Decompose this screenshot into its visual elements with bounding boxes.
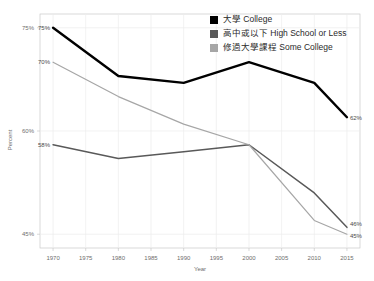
x-axis-title: Year	[194, 266, 206, 272]
x-tick-1980: 1980	[112, 255, 126, 261]
legend-label-college: 大學 College	[223, 14, 272, 25]
x-tick-1970: 1970	[46, 255, 60, 261]
x-tick-1995: 1995	[210, 255, 224, 261]
x-tick-1975: 1975	[79, 255, 93, 261]
label-high-school-end: 46%	[350, 221, 363, 227]
x-tick-2000: 2000	[242, 255, 256, 261]
legend-swatch-some-college	[210, 44, 218, 52]
chart-legend: 大學 College 高中或以下 High School or Less 修過大…	[210, 14, 346, 53]
x-axis-tick-marks	[53, 248, 347, 251]
legend-label-some-college: 修過大學課程 Some College	[223, 42, 333, 53]
legend-item-some-college[interactable]: 修過大學課程 Some College	[210, 42, 346, 53]
y-axis-title: Percent	[7, 129, 13, 150]
label-some-college-start: 70%	[38, 59, 51, 65]
y-axis-tick-labels: 45%60%75%	[22, 25, 35, 237]
y-tick-45%: 45%	[22, 231, 35, 237]
legend-swatch-college	[210, 16, 218, 24]
x-tick-2010: 2010	[308, 255, 322, 261]
legend-item-college[interactable]: 大學 College	[210, 14, 346, 25]
legend-label-high-school-or-less: 高中或以下 High School or Less	[223, 28, 346, 39]
label-some-college-end: 45%	[350, 233, 363, 239]
label-high-school-start: 58%	[38, 142, 51, 148]
y-tick-75%: 75%	[22, 25, 35, 31]
label-college-end: 62%	[350, 115, 363, 121]
y-tick-60%: 60%	[22, 128, 35, 134]
x-tick-2005: 2005	[275, 255, 289, 261]
x-axis-tick-labels: 1970197519801985199019952000200520102015	[46, 255, 354, 261]
legend-item-high-school-or-less[interactable]: 高中或以下 High School or Less	[210, 28, 346, 39]
x-tick-1990: 1990	[177, 255, 191, 261]
label-college-start: 75%	[38, 25, 51, 31]
line-chart: 45%60%75% 197019751980198519901995200020…	[0, 0, 374, 281]
x-tick-1985: 1985	[144, 255, 158, 261]
legend-swatch-high-school-or-less	[210, 30, 218, 38]
x-tick-2015: 2015	[340, 255, 354, 261]
